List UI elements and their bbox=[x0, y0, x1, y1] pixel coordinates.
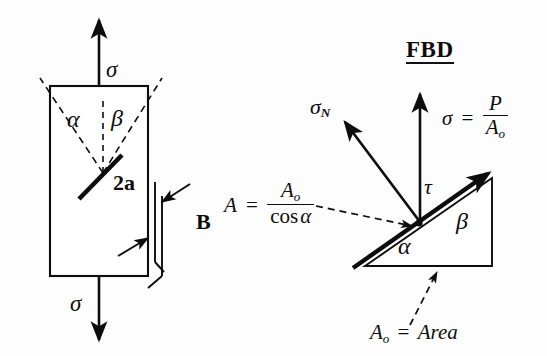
area-note-value: Area bbox=[418, 320, 458, 344]
angle-alpha-label-wedge: α bbox=[398, 234, 411, 258]
shear-stress-label: τ bbox=[424, 176, 432, 198]
base-area-leader-line bbox=[410, 272, 437, 325]
stress-label-bottom: σ bbox=[70, 292, 81, 315]
normal-stress-label: σN bbox=[310, 96, 330, 120]
equation-sigma-fraction: P Ao bbox=[483, 93, 508, 140]
equation-sigma-lhs: σ bbox=[442, 108, 452, 129]
equation-sigma-numerator: P bbox=[483, 93, 508, 114]
plane-midpoint-marker bbox=[415, 219, 422, 226]
equation-area-equals: = bbox=[242, 195, 262, 216]
thickness-label: B bbox=[196, 211, 211, 233]
angle-beta-label-wedge: β bbox=[456, 209, 468, 233]
equation-area-lhs: A bbox=[224, 195, 237, 216]
equation-sigma: σ = P Ao bbox=[442, 95, 508, 142]
equation-area-cos: cos bbox=[270, 204, 298, 228]
area-note: Ao = Area bbox=[370, 322, 458, 345]
angle-beta-label-plate: β bbox=[111, 106, 123, 130]
crack-length-label: 2a bbox=[113, 172, 135, 194]
area-note-subscript: o bbox=[383, 331, 390, 346]
fbd-title: FBD bbox=[406, 38, 454, 64]
equation-area-numerator-symbol: A bbox=[281, 178, 294, 202]
angle-alpha-label-plate: α bbox=[67, 107, 80, 131]
normal-stress-arrow bbox=[345, 122, 420, 222]
equation-sigma-equals: = bbox=[458, 108, 478, 129]
area-note-equals: = bbox=[395, 320, 413, 344]
equation-sigma-denominator: Ao bbox=[483, 117, 508, 140]
equation-area-angle: α bbox=[298, 204, 311, 228]
equation-sigma-denominator-subscript: o bbox=[499, 126, 506, 141]
equation-area: A = Ao cosα bbox=[224, 182, 314, 229]
equation-area-numerator: Ao bbox=[267, 180, 314, 203]
normal-stress-subscript: N bbox=[321, 105, 331, 120]
area-note-symbol: A bbox=[370, 320, 383, 344]
area-leader-line bbox=[316, 206, 412, 226]
equation-sigma-denominator-symbol: A bbox=[486, 115, 499, 139]
equation-area-numerator-subscript: o bbox=[294, 189, 301, 204]
engineering-figure bbox=[0, 0, 547, 356]
equation-area-fraction: Ao cosα bbox=[267, 180, 314, 227]
normal-stress-symbol: σ bbox=[310, 94, 321, 119]
stress-label-top: σ bbox=[106, 58, 117, 81]
equation-area-denominator: cosα bbox=[267, 206, 314, 227]
